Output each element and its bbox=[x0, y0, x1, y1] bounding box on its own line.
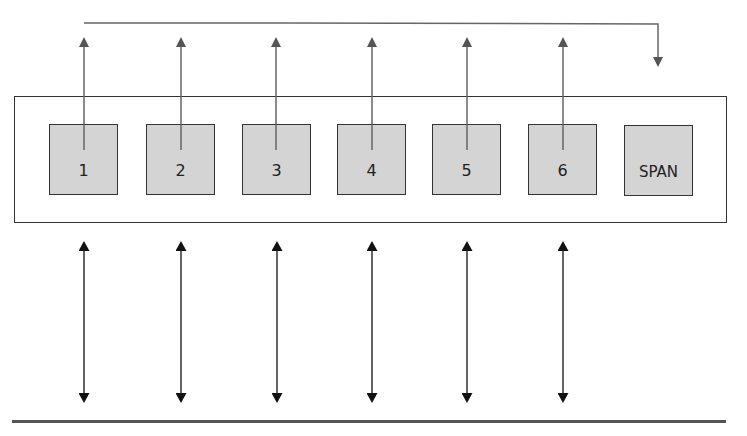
arrows-layer bbox=[0, 0, 747, 436]
link-arrows bbox=[84, 246, 563, 398]
mirror-arrows bbox=[84, 42, 563, 150]
network-bus-line bbox=[12, 420, 726, 423]
mirror-bus-line bbox=[84, 23, 658, 62]
